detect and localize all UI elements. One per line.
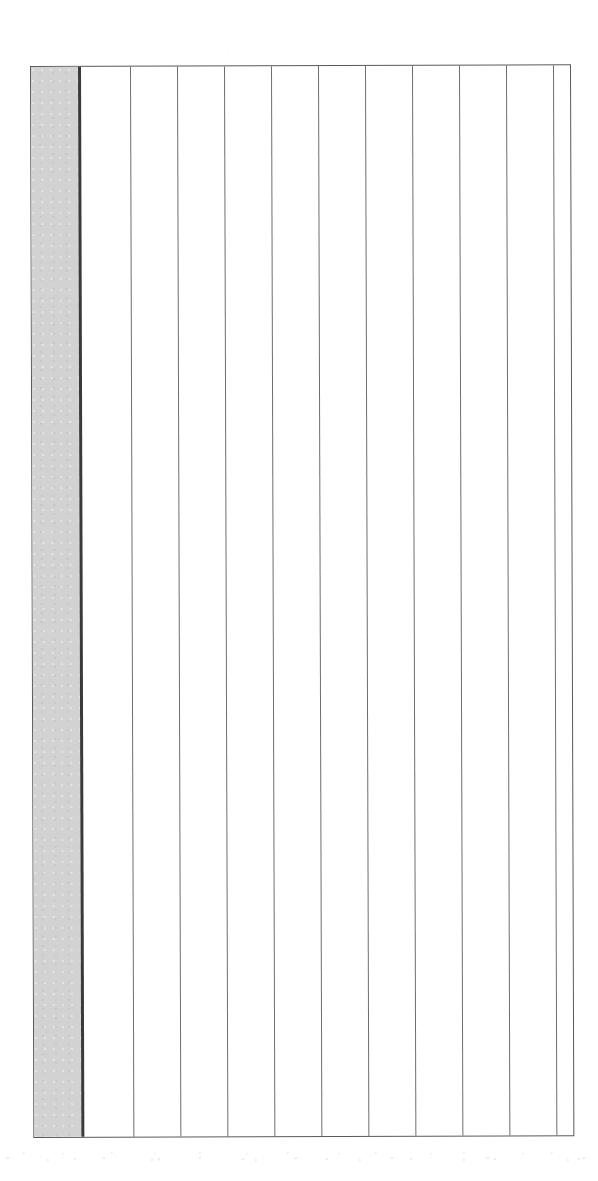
blank-column-cell (553, 65, 574, 1135)
blank-column-cell (271, 66, 321, 1136)
blank-column-cell (506, 65, 556, 1135)
blank-column-cell (81, 67, 133, 1137)
blank-column-cell (459, 66, 509, 1136)
shaded-column-cell (31, 67, 85, 1137)
blank-column-cell (318, 66, 368, 1136)
blank-column-cell (412, 66, 462, 1136)
scan-speckle-band (0, 1145, 598, 1167)
blank-column-cell (177, 66, 227, 1136)
blank-column-cell (224, 66, 274, 1136)
blank-column-cell (130, 67, 180, 1137)
page-canvas (0, 0, 598, 1181)
blank-column-cell (365, 66, 415, 1136)
ruled-table (30, 64, 574, 1138)
